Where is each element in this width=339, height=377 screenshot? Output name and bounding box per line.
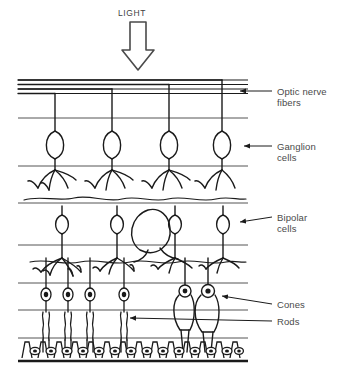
ganglion-cell-group — [18, 80, 235, 190]
light-direction-arrow — [122, 22, 154, 70]
label-rods: Rods — [277, 316, 300, 328]
label-bipolar-cells-line1: Bipolar — [277, 212, 307, 224]
label-optic-nerve-fibers-line2: fibers — [277, 97, 301, 109]
retina-diagram: LIGHT — [0, 0, 339, 377]
light-label: LIGHT — [118, 8, 146, 20]
label-bipolar-cells-line2: cells — [277, 223, 297, 235]
leader-rods — [130, 318, 272, 321]
label-ganglion-cells-line2: cells — [277, 152, 297, 164]
ganglion-cell — [18, 94, 76, 191]
label-optic-nerve-fibers-line1: Optic nerve — [277, 86, 327, 98]
bipolar-cell — [93, 206, 134, 274]
bipolar-cell — [33, 206, 81, 276]
label-ganglion-cells-line1: Ganglion — [277, 141, 316, 153]
label-leader-lines — [130, 91, 272, 321]
pigment-epithelium-layer — [22, 342, 243, 358]
optic-nerve-fiber-layer — [18, 80, 248, 94]
label-cones: Cones — [277, 299, 305, 311]
leader-bipolar-cells — [240, 217, 272, 222]
ganglion-cell — [18, 89, 133, 190]
leader-cones — [222, 296, 272, 304]
